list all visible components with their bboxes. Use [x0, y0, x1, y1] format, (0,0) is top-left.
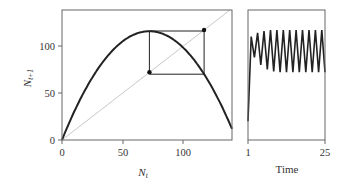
- x-tick-label: 100: [175, 147, 191, 158]
- plot-frame: [248, 10, 325, 140]
- x-tick-label: 0: [59, 147, 64, 158]
- time-series-line: [248, 30, 325, 121]
- y-tick-label: 100: [39, 41, 55, 52]
- time-series-panel: 1 25 Time: [245, 10, 330, 175]
- x-axis-label: Nt: [137, 166, 148, 180]
- cycle-point: [147, 70, 151, 74]
- figure: 0 50 100 0 50 100 Nt Nt+1 1 25 Time: [0, 0, 344, 184]
- x-axis-label: Time: [276, 163, 299, 175]
- x-tick-label: 25: [320, 147, 331, 158]
- cobweb-box: [149, 31, 204, 74]
- y-tick-label: 50: [45, 88, 56, 99]
- cobweb-panel: 0 50 100 0 50 100 Nt Nt+1: [21, 10, 232, 180]
- y-tick-label: 0: [50, 135, 55, 146]
- cycle-point: [202, 28, 206, 32]
- x-tick-label: 1: [245, 147, 250, 158]
- y-axis-label: Nt+1: [21, 69, 35, 88]
- map-curve: [62, 31, 232, 140]
- x-tick-label: 50: [118, 147, 129, 158]
